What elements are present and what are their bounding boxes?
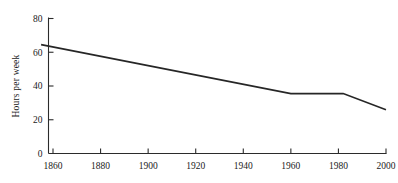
x-tick-label: 2000: [377, 161, 396, 171]
x-tick-label: 1900: [139, 161, 158, 171]
x-tick-label: 1980: [329, 161, 348, 171]
y-tick-label: 60: [33, 48, 43, 58]
chart-background: [0, 0, 398, 183]
y-tick-label: 80: [33, 14, 43, 24]
y-tick-label: 20: [33, 115, 43, 125]
y-tick-label: 40: [33, 81, 43, 91]
chart-canvas: 020406080 186018801900192019401960198020…: [0, 0, 398, 183]
line-chart: 020406080 186018801900192019401960198020…: [0, 0, 398, 183]
x-tick-label: 1920: [186, 161, 205, 171]
x-tick-label: 1940: [234, 161, 253, 171]
x-tick-label: 1960: [281, 161, 300, 171]
y-tick-label: 0: [38, 149, 43, 159]
x-tick-label: 1880: [91, 161, 110, 171]
y-axis-title-text: Hours per week: [11, 54, 21, 117]
x-tick-label: 1860: [44, 161, 63, 171]
y-axis-title: Hours per week: [11, 54, 21, 117]
